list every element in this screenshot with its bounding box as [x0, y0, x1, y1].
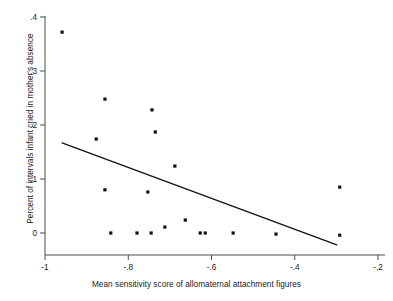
data-point — [338, 186, 341, 189]
data-point — [204, 231, 207, 234]
data-point — [146, 190, 149, 193]
data-point — [184, 218, 187, 221]
data-point — [95, 137, 98, 140]
x-tick-label: -.2 — [373, 263, 383, 272]
x-tick-label: -.4 — [290, 263, 300, 272]
data-point — [135, 231, 138, 234]
data-point — [232, 231, 235, 234]
data-point — [274, 232, 277, 235]
data-point — [163, 225, 166, 228]
x-tick-group: -1-.8-.6-.4-.2 — [41, 255, 383, 272]
data-point — [60, 31, 63, 34]
x-axis-label: Mean sensitivity score of allomaternal a… — [0, 280, 393, 289]
regression-line — [62, 143, 337, 245]
x-tick-label: -.8 — [123, 263, 133, 272]
data-point — [199, 231, 202, 234]
data-point — [109, 231, 112, 234]
x-axis: -1-.8-.6-.4-.2 — [41, 255, 385, 272]
plot-canvas: 0.1.2.3.4 -1-.8-.6-.4-.2 — [0, 0, 393, 301]
y-axis-label: Percent of intervals infant cried in mot… — [26, 9, 35, 249]
data-point — [338, 234, 341, 237]
x-tick-label: -1 — [41, 263, 49, 272]
x-tick-label: -.6 — [207, 263, 217, 272]
regression-line-group — [62, 143, 337, 245]
data-points-group — [60, 31, 341, 237]
data-point — [103, 188, 106, 191]
data-point — [150, 108, 153, 111]
data-point — [103, 97, 106, 100]
data-point — [150, 231, 153, 234]
data-point — [154, 130, 157, 133]
scatter-plot-figure: Percent of intervals infant cried in mot… — [0, 0, 393, 301]
data-point — [173, 164, 176, 167]
